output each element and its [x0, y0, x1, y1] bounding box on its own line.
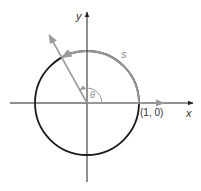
- point-label: (1, 0): [140, 107, 163, 118]
- arc-length-label: s: [121, 48, 127, 60]
- angle-label: θ: [90, 90, 95, 100]
- terminal-ray: [49, 35, 87, 103]
- y-axis-label: y: [75, 10, 83, 22]
- x-axis-label: x: [185, 107, 192, 119]
- unit-circle-diagram: y x s θ (1, 0): [0, 0, 201, 191]
